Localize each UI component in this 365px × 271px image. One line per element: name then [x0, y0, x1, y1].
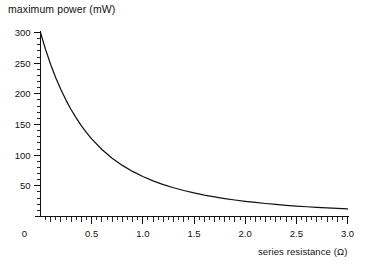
y-tick-label: 150	[15, 119, 31, 130]
x-axis-tick-labels: 00.51.01.52.02.53.0	[22, 228, 354, 239]
y-axis-major-ticks	[34, 33, 41, 186]
x-axis-group: 00.51.01.52.02.53.0	[22, 217, 354, 239]
figure-root: maximum power (mW) series resistance (Ω)…	[0, 0, 365, 271]
data-line-maximum-power	[41, 33, 348, 209]
x-tick-label: 0.5	[85, 228, 98, 239]
plot-area: 50100150200250300 00.51.01.52.02.53.0	[0, 0, 365, 271]
x-tick-label: 1.5	[187, 228, 200, 239]
data-series-group	[41, 33, 348, 209]
y-tick-label: 100	[15, 150, 31, 161]
x-tick-label: 0	[22, 228, 27, 239]
y-tick-label: 250	[15, 58, 31, 69]
y-tick-label: 50	[20, 180, 31, 191]
y-axis-tick-labels: 50100150200250300	[15, 27, 31, 191]
x-tick-label: 2.0	[239, 228, 252, 239]
y-tick-label: 300	[15, 27, 31, 38]
x-tick-label: 3.0	[341, 228, 354, 239]
x-tick-label: 1.0	[136, 228, 149, 239]
y-tick-label: 200	[15, 88, 31, 99]
x-tick-label: 2.5	[290, 228, 303, 239]
y-axis-group: 50100150200250300	[15, 27, 41, 217]
